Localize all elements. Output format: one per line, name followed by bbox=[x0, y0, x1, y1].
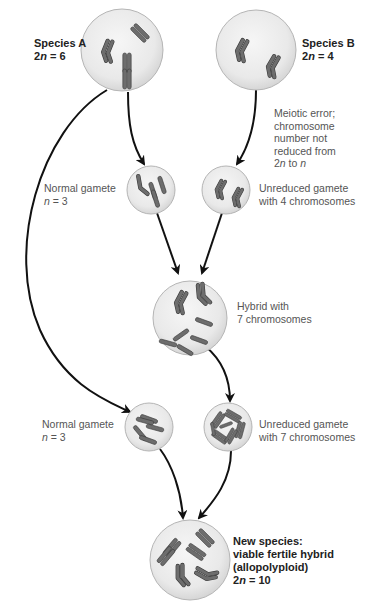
species-a-title: Species A bbox=[34, 37, 86, 50]
allopolyploid-speciation-diagram bbox=[0, 0, 373, 604]
label-unreduced-gamete-7: Unreduced gamete with 7 chromosomes bbox=[259, 418, 355, 443]
label-normal-gamete-1: Normal gamete n = 3 bbox=[44, 182, 116, 207]
cell-normal-gamete-1 bbox=[127, 166, 175, 214]
arrow-hybrid-to-unreduced-gamete-7 bbox=[205, 346, 230, 401]
species-a-ploidy: 2n = 6 bbox=[34, 50, 86, 63]
label-species-b: Species B 2n = 4 bbox=[302, 37, 355, 63]
label-unreduced-gamete-4: Unreduced gamete with 4 chromosomes bbox=[259, 182, 355, 207]
arrow-unreduced-gamete-7-to-new-species bbox=[199, 451, 231, 518]
cell-normal-gamete-2 bbox=[125, 403, 173, 451]
label-species-a: Species A 2n = 6 bbox=[34, 37, 86, 63]
label-hybrid: Hybrid with 7 chromosomes bbox=[237, 300, 312, 325]
species-b-ploidy: 2n = 4 bbox=[302, 50, 355, 63]
label-new-species: New species: viable fertile hybrid (allo… bbox=[233, 535, 334, 587]
cell-unreduced-gamete-7 bbox=[204, 403, 252, 451]
arrow-normal-gamete-2-to-new-species bbox=[160, 449, 183, 518]
label-normal-gamete-2: Normal gamete n = 3 bbox=[42, 418, 114, 443]
arrow-species-a-to-normal-gamete-2 bbox=[26, 90, 130, 412]
cell-new-species bbox=[150, 520, 230, 600]
cell-species-b bbox=[216, 10, 296, 90]
label-meiotic-error-note: Meiotic error; chromosome number not red… bbox=[274, 107, 336, 170]
arrow-unreduced-gamete-4-to-hybrid bbox=[202, 213, 222, 273]
arrow-species-b-to-unreduced-gamete-4 bbox=[237, 90, 256, 164]
new-species-ploidy: 2n = 10 bbox=[233, 574, 334, 587]
species-b-title: Species B bbox=[302, 37, 355, 50]
arrow-species-a-to-normal-gamete-1 bbox=[128, 92, 144, 164]
meiotic-error-last-line: 2n to n bbox=[274, 157, 336, 170]
arrow-normal-gamete-1-to-hybrid bbox=[157, 213, 178, 273]
cell-hybrid bbox=[153, 281, 227, 356]
cell-species-a bbox=[81, 9, 163, 91]
cell-unreduced-gamete-4 bbox=[202, 166, 250, 214]
